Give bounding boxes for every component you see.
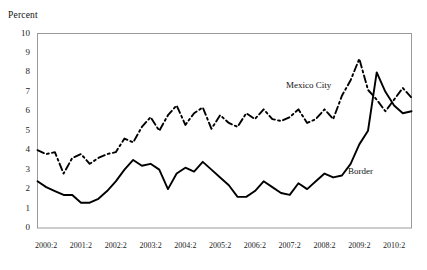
series-line-border xyxy=(38,72,412,202)
series-lines xyxy=(38,59,412,203)
plot-area xyxy=(0,0,427,270)
series-label-mexico-city: Mexico City xyxy=(286,80,331,90)
series-label-border: Border xyxy=(348,166,373,176)
chart-container: Percent 012345678910 2000:22001:22002:22… xyxy=(0,0,427,270)
plot-frame xyxy=(38,34,412,229)
series-line-mexico-city xyxy=(38,59,412,174)
